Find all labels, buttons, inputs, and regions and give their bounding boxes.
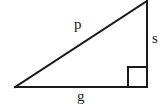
horizontal-leg-label: g (77, 89, 85, 104)
hypotenuse-label: p (74, 17, 82, 32)
geometry-figure: p s g (0, 0, 166, 105)
right-angle-marker-icon (128, 67, 147, 87)
vertical-leg-label: s (152, 31, 158, 46)
